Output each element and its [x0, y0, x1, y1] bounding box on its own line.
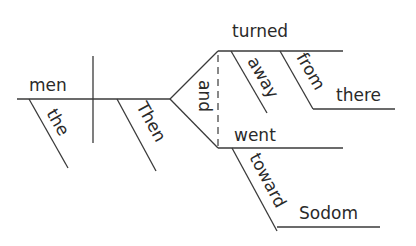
conjunction-and: and: [195, 80, 215, 112]
preposition-toward: toward: [245, 149, 290, 210]
sentence-diagram: men the Then and turned away from there …: [0, 0, 416, 246]
object-sodom: Sodom: [299, 203, 358, 223]
modifier-the: the: [43, 105, 74, 139]
diagram-svg: men the Then and turned away from there …: [0, 0, 416, 246]
subject-men: men: [29, 75, 67, 95]
object-there: there: [336, 85, 381, 105]
modifier-away: away: [244, 53, 284, 102]
verb-went: went: [234, 125, 276, 145]
verb-turned: turned: [232, 21, 288, 41]
preposition-from: from: [293, 49, 330, 93]
